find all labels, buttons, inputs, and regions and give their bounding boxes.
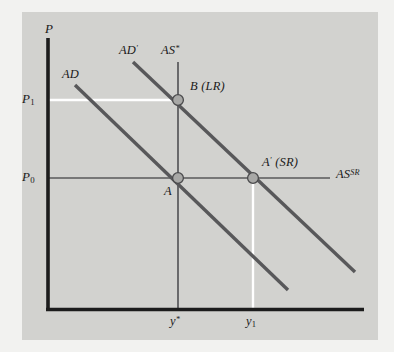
- curve-label-as-sr: ASSR: [336, 168, 360, 181]
- point-label-a-prime: A′ (SR): [262, 156, 298, 169]
- curve-ad-prime: [133, 62, 355, 272]
- curve-ad: [75, 85, 288, 290]
- point-marker-b: [173, 95, 184, 106]
- diagram-svg: [0, 0, 394, 352]
- axis-label-price: P: [45, 22, 53, 35]
- curve-label-ad-prime: AD′: [119, 44, 138, 57]
- point-marker-a: [173, 173, 184, 184]
- point-label-a: A: [164, 185, 172, 198]
- guide-lines: [47, 100, 253, 310]
- curve-label-ad: AD: [62, 68, 79, 81]
- tick-label-y-star: y*: [170, 315, 180, 328]
- curve-label-as-star: AS*: [161, 44, 180, 57]
- tick-label-p0: P0: [22, 170, 35, 185]
- point-label-b: B (LR): [190, 80, 225, 93]
- tick-label-p1: P1: [22, 92, 35, 107]
- tick-label-y1: y1: [246, 315, 256, 328]
- point-marker-a-prime: [248, 173, 259, 184]
- figure-canvas: P P1 P0 y* y1 AD AD′ AS* ASSR A B (LR) A…: [0, 0, 394, 352]
